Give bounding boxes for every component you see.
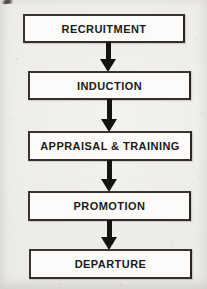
- flow-box-label: DEPARTURE: [75, 258, 147, 270]
- arrow-stem: [107, 160, 112, 179]
- down-arrow-4: [101, 220, 117, 250]
- arrow-stem: [106, 42, 111, 59]
- flow-box-departure: DEPARTURE: [29, 249, 192, 279]
- arrow-stem: [107, 99, 112, 119]
- flow-box-label: PROMOTION: [74, 200, 146, 212]
- flow-box-recruitment: RECRUITMENT: [23, 14, 185, 43]
- flow-box-label: RECRUITMENT: [61, 23, 146, 35]
- flow-box-label: APPRAISAL & TRAINING: [40, 140, 180, 152]
- scanned-flowchart: RECRUITMENT INDUCTION APPRAISAL & TRAINI…: [0, 0, 207, 289]
- flow-box-label: INDUCTION: [77, 80, 142, 92]
- down-arrow-1: [100, 42, 116, 72]
- arrow-stem: [107, 220, 112, 237]
- flow-box-induction: INDUCTION: [28, 71, 191, 100]
- down-arrow-3: [101, 160, 117, 192]
- flow-box-appraisal-training: APPRAISAL & TRAINING: [28, 131, 192, 161]
- down-arrow-2: [101, 99, 117, 132]
- flow-box-promotion: PROMOTION: [28, 191, 191, 221]
- scan-artifact-smudge: [2, 0, 13, 5]
